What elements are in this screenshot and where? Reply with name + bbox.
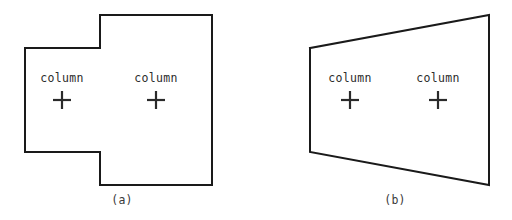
panel-a-column-label-1: column [40, 71, 83, 85]
panel-b-column-label-1: column [328, 71, 371, 85]
panel-b-column-label-2: column [416, 71, 459, 85]
panel-a-column-label-2: column [134, 71, 177, 85]
panel-a-caption: (a) [111, 193, 133, 207]
figure-canvas: column column (a) column column (b) [0, 0, 512, 220]
panel-b-caption: (b) [384, 193, 406, 207]
panel-b-outline [310, 15, 489, 185]
figure-vector-layer [0, 0, 512, 220]
